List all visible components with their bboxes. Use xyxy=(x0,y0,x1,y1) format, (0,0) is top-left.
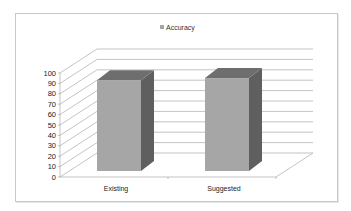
gridline-diagonal xyxy=(60,122,97,146)
x-axis: ExistingSuggested xyxy=(104,177,276,193)
gridline-diagonal xyxy=(60,70,97,94)
y-tick-label: 70 xyxy=(48,100,56,109)
bar-suggested xyxy=(205,68,262,171)
gridline-diagonal xyxy=(60,143,97,167)
y-tick-label: 10 xyxy=(48,162,56,171)
y-axis: 0102030405060708090100 xyxy=(43,69,60,182)
legend: Accuracy xyxy=(160,24,195,32)
gridline-diagonal xyxy=(60,49,97,73)
y-tick-label: 80 xyxy=(48,89,56,98)
gridline-diagonal xyxy=(60,153,97,177)
y-tick-label: 100 xyxy=(43,69,56,78)
y-tick-label: 30 xyxy=(48,141,56,150)
gridline-diagonal xyxy=(60,101,97,125)
legend-label: Accuracy xyxy=(166,24,195,32)
gridline-diagonal xyxy=(60,80,97,104)
gridline-diagonal xyxy=(60,59,97,83)
gridline-diagonal xyxy=(60,132,97,156)
bars xyxy=(97,68,262,171)
y-tick-label: 50 xyxy=(48,121,56,130)
y-tick-label: 60 xyxy=(48,110,56,119)
y-tick-label: 20 xyxy=(48,152,56,161)
y-tick-label: 0 xyxy=(52,173,56,182)
x-tick-label: Suggested xyxy=(207,185,241,193)
x-tick-label: Existing xyxy=(104,185,129,193)
y-tick-label: 40 xyxy=(48,131,56,140)
bar-existing xyxy=(97,70,154,171)
accuracy-chart: Accuracy 0102030405060708090100 Existing… xyxy=(0,0,351,211)
y-tick-label: 90 xyxy=(48,79,56,88)
gridline-diagonal xyxy=(60,111,97,135)
legend-swatch xyxy=(160,25,164,29)
gridline-diagonal xyxy=(60,91,97,115)
